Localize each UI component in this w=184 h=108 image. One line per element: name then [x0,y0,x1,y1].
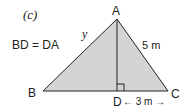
vertex-c-label: C [171,88,180,100]
triangle-abc [43,19,168,91]
vertex-d-label: D [113,96,122,108]
part-label: (c) [23,8,37,21]
side-ac-label: 5 m [142,40,160,51]
side-dc-label: ← 3 m → [123,97,165,107]
side-ab-label: y [82,28,87,40]
vertex-b-label: B [28,87,36,99]
vertex-a-label: A [112,5,120,17]
condition-text: BD = DA [12,39,59,51]
